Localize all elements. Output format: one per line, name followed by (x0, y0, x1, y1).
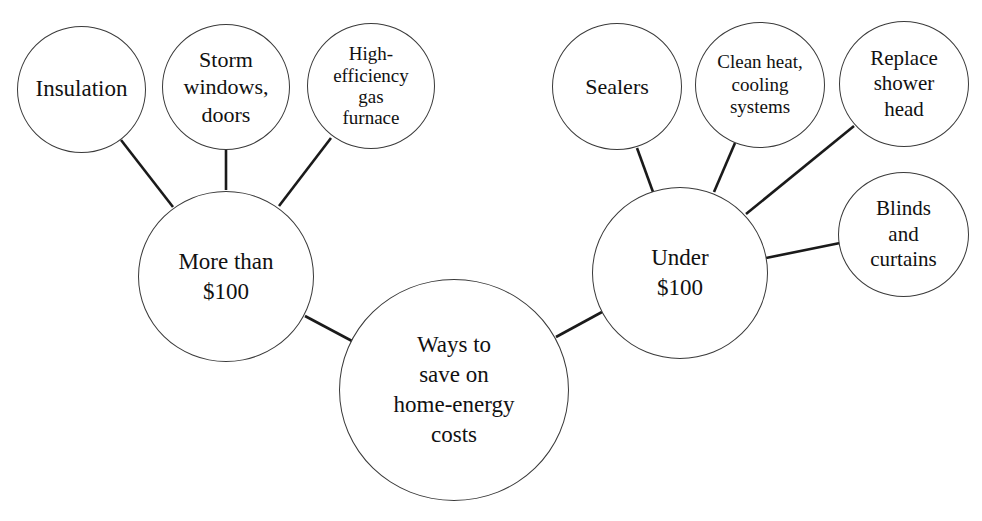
node-label: Clean heat, cooling systems (717, 51, 802, 118)
node-label: Under $100 (651, 243, 708, 303)
node-label: Ways to save on home-energy costs (394, 330, 515, 450)
connector-blinds (766, 243, 840, 258)
connector-clean-heat (714, 143, 735, 192)
node-high-efficiency-furnace: High- efficiency gas furnace (307, 23, 435, 149)
node-label: Sealers (585, 73, 649, 101)
node-more-than-100: More than $100 (138, 191, 314, 362)
connector-high-efficiency (279, 138, 331, 206)
node-label: Blinds and curtains (870, 196, 936, 273)
node-label: Storm windows, doors (184, 46, 269, 129)
node-replace-shower-head: Replace shower head (839, 21, 969, 147)
node-insulation: Insulation (17, 26, 146, 153)
connector-sealers (637, 148, 653, 192)
node-root-ways-to-save: Ways to save on home-energy costs (339, 279, 569, 501)
node-label: High- efficiency gas furnace (333, 43, 409, 128)
connector-root-more-than-100 (305, 316, 352, 341)
node-under-100: Under $100 (592, 187, 768, 359)
node-clean-heat-cooling: Clean heat, cooling systems (695, 22, 825, 148)
node-storm-windows-doors: Storm windows, doors (162, 24, 290, 150)
connector-root-under-100 (556, 312, 602, 337)
node-sealers: Sealers (552, 23, 682, 150)
node-blinds-curtains: Blinds and curtains (838, 172, 969, 297)
node-label: Replace shower head (870, 46, 938, 123)
node-label: Insulation (36, 75, 128, 104)
node-label: More than $100 (178, 247, 273, 307)
energy-savings-diagram: Insulation Storm windows, doors High- ef… (0, 0, 982, 521)
connector-insulation (121, 140, 173, 207)
